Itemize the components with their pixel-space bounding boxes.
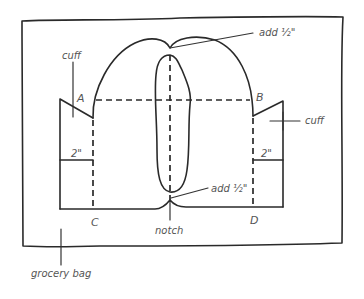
label-point-d: D <box>250 214 258 227</box>
label-grocery-bag: grocery bag <box>31 268 91 279</box>
label-2in-right: 2" <box>261 148 272 159</box>
label-2in-left: 2" <box>71 148 82 159</box>
label-point-a: A <box>76 92 85 105</box>
label-notch: notch <box>155 225 183 236</box>
add-top-leader <box>170 33 253 48</box>
label-add-half-top: add ½" <box>259 27 295 38</box>
label-point-c: C <box>91 216 99 229</box>
upper-outline <box>93 37 253 118</box>
foot-outline <box>155 55 190 192</box>
pattern-diagram: cuff cuff A B C D add ½" add ½" 2" 2" no… <box>0 0 364 299</box>
label-point-b: B <box>256 91 264 104</box>
label-add-half-bottom: add ½" <box>211 183 247 194</box>
label-cuff-left: cuff <box>62 50 83 61</box>
cuff-right-leader <box>270 112 300 130</box>
label-cuff-right: cuff <box>305 115 326 126</box>
add-bottom-leader <box>171 188 208 198</box>
